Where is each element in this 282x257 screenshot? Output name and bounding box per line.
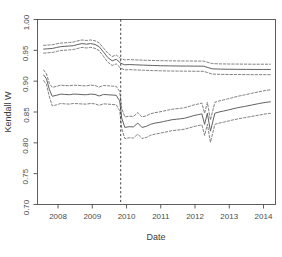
x-tick-label: 2008	[49, 212, 67, 221]
y-tick-label: 0.90	[22, 76, 31, 92]
y-tick-label: 1.00	[22, 14, 31, 30]
x-axis-title: Date	[146, 232, 165, 242]
y-tick-label: 0.75	[22, 168, 31, 184]
x-tick-label: 2012	[186, 212, 204, 221]
y-tick-label: 0.85	[22, 107, 31, 123]
y-tick-label: 0.80	[22, 138, 31, 154]
chart-background	[0, 0, 282, 257]
kendall-w-line-chart: 0.700.750.800.850.900.951.00 20082009201…	[0, 0, 282, 257]
x-tick-label: 2011	[152, 212, 170, 221]
y-axis-title: Kendall W	[3, 91, 13, 133]
y-tick-label: 0.70	[22, 199, 31, 215]
x-tick-label: 2014	[255, 212, 273, 221]
x-tick-label: 2009	[83, 212, 101, 221]
chart-container: 0.700.750.800.850.900.951.00 20082009201…	[0, 0, 282, 257]
y-tick-label: 0.95	[22, 45, 31, 61]
x-tick-label: 2013	[220, 212, 238, 221]
x-tick-label: 2010	[118, 212, 136, 221]
